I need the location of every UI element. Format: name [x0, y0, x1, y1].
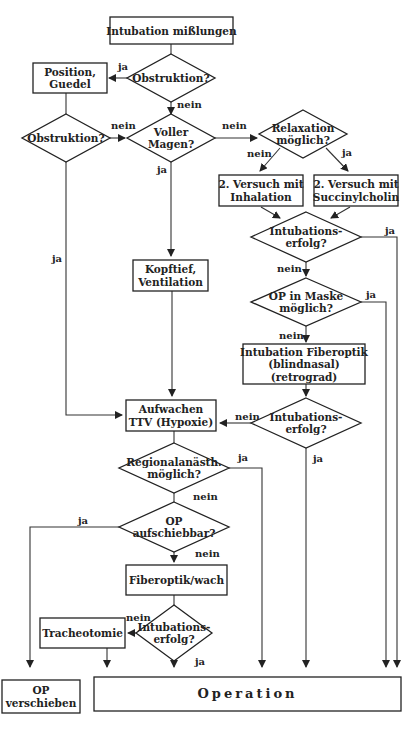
node-text: verschieben — [5, 697, 77, 709]
edge-label-ja: ja — [384, 225, 396, 236]
node-text: Fiberoptik/wach — [129, 574, 225, 586]
node-text: OP — [32, 684, 49, 696]
edge-label-ja: ja — [312, 453, 324, 464]
node-text: Operation — [197, 686, 297, 701]
node-text: möglich? — [279, 302, 333, 314]
node-text: 2. Versuch mit — [313, 178, 398, 190]
node-text: OP — [165, 515, 182, 527]
edge-label-ja: ja — [51, 253, 63, 264]
edge-label-ja: ja — [341, 147, 353, 158]
node-text: Intubations- — [270, 225, 343, 237]
node-opverschieben: OPverschieben — [2, 680, 80, 713]
node-regional: Regionalanästh.möglich? — [119, 443, 229, 493]
node-text: Magen? — [148, 138, 194, 150]
node-erfolg2: Intubations-erfolg? — [251, 398, 361, 448]
node-text: Intubations- — [270, 411, 343, 423]
node-text: möglich? — [276, 134, 330, 146]
edge-label-ja: ja — [194, 656, 206, 667]
edge-connector — [66, 162, 122, 415]
edge-label-nein: nein — [279, 330, 304, 341]
node-text: TTV (Hypoxie) — [129, 416, 213, 428]
node-text: Position, — [44, 66, 96, 78]
node-relaxation: Relaxationmöglich? — [259, 110, 347, 158]
node-opmaske: OP in Maskemöglich? — [251, 278, 361, 326]
node-text: Intubation mißlungen — [106, 25, 237, 37]
node-start: Intubation mißlungen — [106, 17, 237, 44]
edge-connector — [229, 468, 262, 667]
node-text: Tracheotomie — [42, 627, 123, 639]
node-aufschiebbar: OPaufschiebbar? — [119, 502, 229, 552]
node-text: Aufwachen — [138, 403, 204, 415]
node-text: 2. Versuch mit — [218, 178, 303, 190]
node-succinyl: 2. Versuch mitSuccinylcholin — [313, 175, 400, 206]
node-obstr2: Obstruktion? — [22, 114, 110, 162]
node-text: Obstruktion? — [132, 72, 209, 84]
node-text: Ventilation — [137, 276, 203, 288]
node-obstr1: Obstruktion? — [127, 54, 215, 102]
node-kopftief: Kopftief,Ventilation — [133, 260, 208, 291]
node-tracheo: Tracheotomie — [40, 618, 125, 648]
edge-label-nein: nein — [193, 491, 218, 502]
edge-label-ja: ja — [237, 452, 249, 463]
node-fiberwach: Fiberoptik/wach — [126, 565, 227, 595]
node-operation: Operation — [94, 677, 401, 711]
edge-label-nein: nein — [222, 120, 247, 131]
node-erfolg1: Intubations-erfolg? — [251, 212, 361, 262]
node-text: erfolg? — [153, 633, 194, 645]
edge-label-nein: nein — [195, 548, 220, 559]
node-text: OP in Maske — [269, 290, 344, 302]
edge-label-ja: ja — [77, 515, 89, 526]
node-vollermagen: VollerMagen? — [127, 114, 215, 162]
node-fiberoptik1: Intubation Fiberoptik(blindnasal)(retrog… — [240, 344, 368, 384]
flowchart: janeinneinneinneinjaneinjajaneinneinjaja… — [0, 0, 418, 729]
node-text: Obstruktion? — [27, 132, 104, 144]
node-aufwachen: AufwachenTTV (Hypoxie) — [126, 400, 216, 431]
node-text: (blindnasal) — [268, 358, 339, 370]
node-text: (retrograd) — [271, 371, 338, 383]
edge-connector — [261, 207, 280, 218]
edge-label-nein: nein — [111, 120, 136, 131]
node-text: Relaxation — [272, 122, 335, 134]
node-text: Voller — [153, 126, 189, 138]
edge-label-ja: ja — [117, 61, 129, 72]
node-text: aufschiebbar? — [133, 527, 216, 539]
node-text: Kopftief, — [145, 263, 196, 275]
edge-label-nein: nein — [247, 148, 272, 159]
node-text: Intubation Fiberoptik — [240, 346, 368, 358]
node-text: Succinylcholin — [313, 191, 400, 203]
edge-connector — [331, 207, 350, 218]
edge-label-ja: ja — [365, 289, 377, 300]
node-text: Guedel — [49, 78, 90, 90]
node-text: möglich? — [147, 468, 201, 480]
node-text: erfolg? — [285, 423, 326, 435]
node-text: Intubations- — [138, 621, 211, 633]
node-text: Inhalation — [230, 191, 292, 203]
edge-label-nein: nein — [277, 263, 302, 274]
node-inhalation: 2. Versuch mitInhalation — [218, 175, 303, 206]
edge-label-nein: nein — [177, 99, 202, 110]
edge-label-ja: ja — [156, 164, 168, 175]
node-text: Regionalanästh. — [126, 456, 221, 468]
nodes: Intubation mißlungenObstruktion?Position… — [2, 17, 401, 713]
node-text: erfolg? — [285, 237, 326, 249]
node-position: Position,Guedel — [33, 63, 107, 93]
